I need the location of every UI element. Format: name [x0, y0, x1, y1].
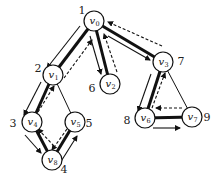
visit-order-label: 9: [204, 111, 211, 124]
node-v0: v01: [79, 4, 105, 31]
node-subscript: 8: [54, 159, 58, 167]
visit-order-label: 5: [86, 117, 93, 130]
node-subscript: 2: [112, 83, 116, 91]
visit-order-label: 8: [124, 114, 131, 127]
node-v2: v26: [89, 74, 121, 95]
node-subscript: 3: [165, 61, 169, 69]
node-v4: v43: [10, 112, 43, 132]
node-v8: v84: [42, 150, 68, 176]
node-subscript: 4: [34, 121, 38, 129]
visit-order-label: 3: [10, 117, 17, 130]
arrow-back-v1-v0: [64, 40, 92, 78]
node-subscript: 1: [55, 74, 59, 82]
node-v6: v68: [124, 108, 156, 128]
node-v3: v37: [153, 52, 185, 72]
node-v7: v79: [182, 107, 211, 127]
node-subscript: 5: [77, 121, 81, 129]
node-subscript: 7: [194, 116, 198, 124]
node-v5: v55: [65, 112, 93, 132]
dfs-graph-diagram: v01v12v26v37v43v55v68v79v84: [0, 0, 219, 181]
node-subscript: 0: [96, 20, 100, 28]
visit-order-label: 7: [178, 55, 185, 68]
visit-order-label: 1: [79, 4, 86, 17]
node-subscript: 6: [147, 117, 151, 125]
visit-order-label: 6: [89, 82, 96, 95]
arrow-forward-v0-v3: [108, 36, 150, 60]
visit-order-label: 2: [35, 62, 42, 75]
traversal-arrows: [24, 22, 182, 163]
visit-order-label: 4: [61, 163, 68, 176]
